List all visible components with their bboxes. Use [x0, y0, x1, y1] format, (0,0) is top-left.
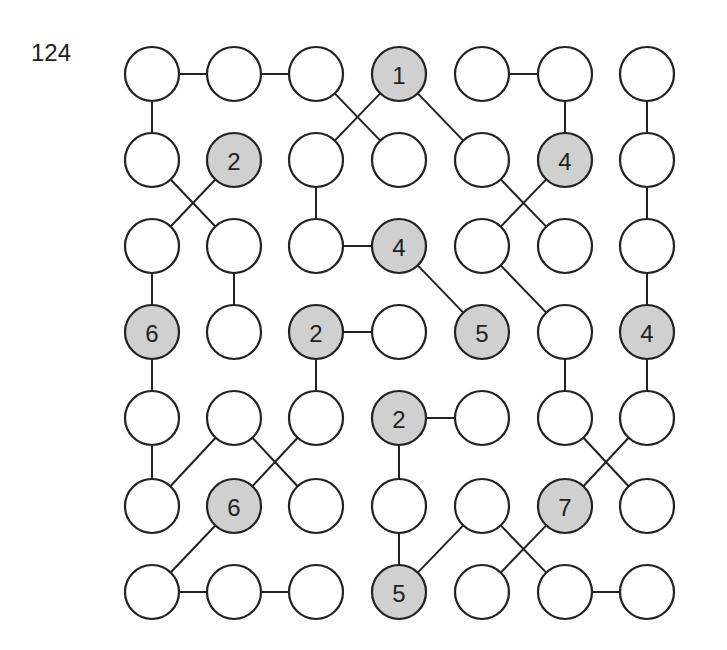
node-circle[interactable]	[207, 565, 261, 619]
node-circle[interactable]	[125, 479, 179, 533]
empty-node[interactable]	[372, 305, 426, 359]
clue-value: 4	[558, 148, 571, 175]
empty-node[interactable]	[538, 47, 592, 101]
empty-node[interactable]	[125, 133, 179, 187]
clue-value: 2	[309, 320, 322, 347]
empty-node[interactable]	[455, 47, 509, 101]
node-circle[interactable]	[455, 391, 509, 445]
puzzle-board: 124462542675	[0, 0, 727, 650]
clue-node[interactable]: 1	[372, 47, 426, 101]
node-circle[interactable]	[372, 305, 426, 359]
node-circle[interactable]	[538, 47, 592, 101]
node-circle[interactable]	[207, 391, 261, 445]
empty-node[interactable]	[620, 133, 674, 187]
empty-node[interactable]	[125, 47, 179, 101]
clue-value: 1	[392, 62, 405, 89]
empty-node[interactable]	[125, 479, 179, 533]
empty-node[interactable]	[538, 219, 592, 273]
node-circle[interactable]	[372, 133, 426, 187]
node-circle[interactable]	[620, 133, 674, 187]
clue-node[interactable]: 7	[538, 479, 592, 533]
empty-node[interactable]	[289, 391, 343, 445]
clue-value: 5	[475, 320, 488, 347]
empty-node[interactable]	[125, 391, 179, 445]
clue-node[interactable]: 6	[125, 305, 179, 359]
empty-node[interactable]	[455, 219, 509, 273]
empty-node[interactable]	[455, 133, 509, 187]
empty-node[interactable]	[289, 565, 343, 619]
clue-value: 6	[227, 494, 240, 521]
empty-node[interactable]	[207, 391, 261, 445]
clue-node[interactable]: 5	[372, 565, 426, 619]
empty-node[interactable]	[620, 391, 674, 445]
empty-node[interactable]	[538, 565, 592, 619]
empty-node[interactable]	[620, 219, 674, 273]
node-circle[interactable]	[125, 47, 179, 101]
clue-node[interactable]: 4	[538, 133, 592, 187]
empty-node[interactable]	[125, 565, 179, 619]
clue-value: 5	[392, 580, 405, 607]
clue-node[interactable]: 6	[207, 479, 261, 533]
empty-node[interactable]	[289, 479, 343, 533]
connection-line	[171, 526, 216, 573]
empty-node[interactable]	[620, 479, 674, 533]
empty-node[interactable]	[289, 219, 343, 273]
empty-node[interactable]	[207, 305, 261, 359]
clue-value: 4	[392, 234, 405, 261]
clue-node[interactable]: 4	[372, 219, 426, 273]
empty-node[interactable]	[538, 305, 592, 359]
empty-node[interactable]	[455, 391, 509, 445]
empty-node[interactable]	[372, 133, 426, 187]
node-circle[interactable]	[620, 479, 674, 533]
connection-line	[418, 93, 463, 140]
clue-node[interactable]: 4	[620, 305, 674, 359]
node-circle[interactable]	[372, 479, 426, 533]
node-circle[interactable]	[455, 565, 509, 619]
node-circle[interactable]	[620, 565, 674, 619]
empty-node[interactable]	[455, 565, 509, 619]
connection-line	[501, 265, 546, 312]
empty-node[interactable]	[372, 479, 426, 533]
node-circle[interactable]	[455, 133, 509, 187]
empty-node[interactable]	[538, 391, 592, 445]
node-circle[interactable]	[289, 47, 343, 101]
empty-node[interactable]	[620, 565, 674, 619]
empty-node[interactable]	[620, 47, 674, 101]
node-circle[interactable]	[538, 565, 592, 619]
node-circle[interactable]	[538, 219, 592, 273]
node-circle[interactable]	[620, 391, 674, 445]
node-circle[interactable]	[207, 305, 261, 359]
node-circle[interactable]	[207, 219, 261, 273]
node-circle[interactable]	[289, 479, 343, 533]
empty-node[interactable]	[455, 479, 509, 533]
empty-node[interactable]	[207, 47, 261, 101]
node-circle[interactable]	[289, 565, 343, 619]
empty-node[interactable]	[207, 219, 261, 273]
connection-line	[170, 438, 215, 486]
empty-node[interactable]	[207, 565, 261, 619]
node-circle[interactable]	[207, 47, 261, 101]
node-circle[interactable]	[455, 219, 509, 273]
node-circle[interactable]	[620, 219, 674, 273]
node-circle[interactable]	[289, 219, 343, 273]
clue-node[interactable]: 2	[372, 391, 426, 445]
node-circle[interactable]	[125, 565, 179, 619]
node-circle[interactable]	[125, 133, 179, 187]
empty-node[interactable]	[289, 47, 343, 101]
node-circle[interactable]	[289, 391, 343, 445]
clue-node[interactable]: 5	[455, 305, 509, 359]
node-circle[interactable]	[455, 47, 509, 101]
clue-value: 6	[145, 320, 158, 347]
node-circle[interactable]	[125, 391, 179, 445]
clue-node[interactable]: 2	[207, 133, 261, 187]
node-circle[interactable]	[620, 47, 674, 101]
clue-node[interactable]: 2	[289, 305, 343, 359]
node-circle[interactable]	[538, 305, 592, 359]
empty-node[interactable]	[125, 219, 179, 273]
node-circle[interactable]	[289, 133, 343, 187]
node-circle[interactable]	[538, 391, 592, 445]
empty-node[interactable]	[289, 133, 343, 187]
clue-value: 2	[227, 148, 240, 175]
node-circle[interactable]	[125, 219, 179, 273]
node-circle[interactable]	[455, 479, 509, 533]
